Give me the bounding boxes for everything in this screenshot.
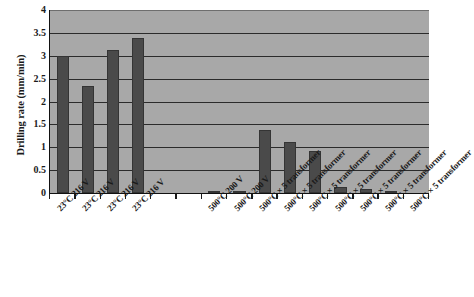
- y-tick-label: 0: [22, 188, 46, 198]
- bar-slot: [252, 10, 277, 193]
- x-tick: [175, 194, 176, 199]
- y-tick-label: 1: [22, 142, 46, 152]
- bar-slot: [50, 10, 75, 193]
- bar: [132, 38, 144, 193]
- bar: [57, 56, 69, 193]
- bar-slot: [101, 10, 126, 193]
- x-tick: [201, 194, 202, 199]
- bar-slot: [227, 10, 252, 193]
- y-axis-tick-labels: 43.532.521.510.50: [22, 10, 46, 193]
- y-tick-label: 2: [22, 97, 46, 107]
- bar: [107, 50, 119, 193]
- y-tick-label: 0.5: [22, 165, 46, 175]
- bar-slot: [202, 10, 227, 193]
- bar-slot: [176, 10, 201, 193]
- y-tick-label: 4: [22, 5, 46, 15]
- x-tick: [49, 194, 50, 199]
- y-tick-label: 3: [22, 51, 46, 61]
- x-axis-tick-labels: 23°C 216 V23°C 216 V23°C 216 V23°C 216 V…: [49, 200, 433, 297]
- bar-slot: [126, 10, 151, 193]
- y-tick-label: 1.5: [22, 119, 46, 129]
- bar-slot: [151, 10, 176, 193]
- bar-slot: [75, 10, 100, 193]
- y-tick-label: 2.5: [22, 74, 46, 84]
- y-tick-label: 3.5: [22, 28, 46, 38]
